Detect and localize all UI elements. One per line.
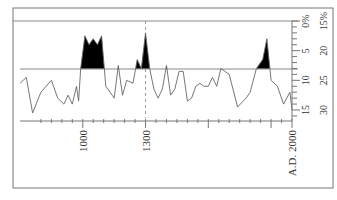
series-line <box>20 33 292 113</box>
x-tick-label: A.D. 2000 <box>286 130 298 177</box>
x-tick-label: 1000 <box>77 130 89 153</box>
x-ticks <box>41 119 292 128</box>
x-labels: 10001300A.D. 2000 <box>77 130 298 177</box>
x-tick-label: 1300 <box>140 130 152 153</box>
y-labels: 0%5101515%202530 <box>300 12 329 115</box>
y-left-label: 5 <box>300 48 311 53</box>
chart-frame <box>13 8 333 188</box>
y-left-label: 0% <box>300 14 311 27</box>
y-right-label: 15% <box>318 12 329 30</box>
y-right-label: 25 <box>318 75 329 85</box>
y-right-label: 30 <box>318 105 329 115</box>
anomaly-fill <box>256 39 269 69</box>
y-right-label: 20 <box>318 46 329 56</box>
chart-svg: 10001300A.D. 2000 0%5101515%202530 <box>0 0 337 200</box>
y-ticks <box>292 21 300 116</box>
fill-layer <box>81 33 270 69</box>
anomaly-fill <box>141 33 149 69</box>
y-left-label: 10 <box>300 75 311 85</box>
y-left-label: 15 <box>300 105 311 115</box>
